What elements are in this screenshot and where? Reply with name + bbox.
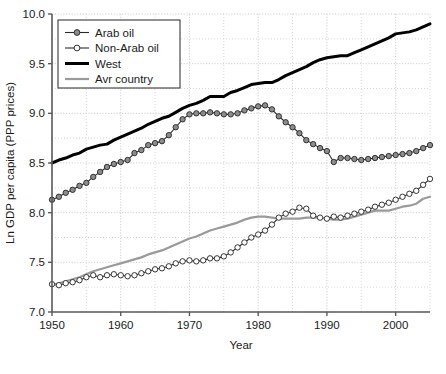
series-marker bbox=[104, 273, 109, 278]
series-marker bbox=[386, 200, 391, 205]
series-marker bbox=[242, 240, 247, 245]
series-marker bbox=[125, 157, 130, 162]
series-marker bbox=[324, 216, 329, 221]
y-tick-label: 7.5 bbox=[29, 256, 45, 268]
series-marker bbox=[242, 108, 247, 113]
series-marker bbox=[91, 273, 96, 278]
series-marker bbox=[414, 148, 419, 153]
series-marker bbox=[269, 222, 274, 227]
series-marker bbox=[77, 278, 82, 283]
series-marker bbox=[228, 112, 233, 117]
series-marker bbox=[207, 110, 212, 115]
series-marker bbox=[427, 142, 432, 147]
series-marker bbox=[207, 256, 212, 261]
series-marker bbox=[132, 150, 137, 155]
series-marker bbox=[249, 106, 254, 111]
series-marker bbox=[345, 213, 350, 218]
x-tick-label: 1970 bbox=[177, 319, 203, 331]
x-tick-label: 1950 bbox=[39, 319, 65, 331]
y-tick-label: 8.0 bbox=[29, 207, 45, 219]
series-marker bbox=[338, 215, 343, 220]
series-marker bbox=[420, 182, 425, 187]
series-marker bbox=[345, 155, 350, 160]
series-marker bbox=[180, 259, 185, 264]
series-marker bbox=[427, 176, 432, 181]
series-marker bbox=[228, 250, 233, 255]
series-marker bbox=[400, 151, 405, 156]
series-marker bbox=[407, 150, 412, 155]
series-marker bbox=[407, 191, 412, 196]
series-marker bbox=[194, 111, 199, 116]
series-marker bbox=[283, 211, 288, 216]
series-marker bbox=[97, 275, 102, 280]
series-marker bbox=[290, 125, 295, 130]
series-marker bbox=[235, 245, 240, 250]
series-marker bbox=[255, 232, 260, 237]
series-marker bbox=[187, 258, 192, 263]
series-marker bbox=[84, 275, 89, 280]
y-tick-label: 7.0 bbox=[29, 306, 45, 318]
series-marker bbox=[63, 280, 68, 285]
y-tick-label: 9.5 bbox=[29, 58, 45, 70]
series-marker bbox=[146, 142, 151, 147]
y-axis-title: Ln GDP per capita (PPP prices) bbox=[4, 82, 16, 244]
series-marker bbox=[70, 280, 75, 285]
series-marker bbox=[166, 264, 171, 269]
series-marker bbox=[118, 273, 123, 278]
x-tick-label: 1960 bbox=[108, 319, 134, 331]
series-marker bbox=[159, 138, 164, 143]
series-marker bbox=[386, 153, 391, 158]
series-marker bbox=[70, 187, 75, 192]
x-tick-label: 1990 bbox=[314, 319, 340, 331]
x-tick-label: 2000 bbox=[383, 319, 409, 331]
series-marker bbox=[255, 104, 260, 109]
series-marker bbox=[400, 194, 405, 199]
series-marker bbox=[132, 273, 137, 278]
legend-label-avr-country: Avr country bbox=[95, 73, 153, 85]
series-marker bbox=[262, 103, 267, 108]
series-marker bbox=[214, 111, 219, 116]
series-marker bbox=[393, 197, 398, 202]
series-marker bbox=[331, 214, 336, 219]
series-marker bbox=[372, 155, 377, 160]
series-marker bbox=[297, 131, 302, 136]
chart-legend: Arab oilNon-Arab oilWestAvr country bbox=[58, 20, 180, 88]
series-marker bbox=[152, 267, 157, 272]
series-marker bbox=[77, 183, 82, 188]
series-marker bbox=[276, 114, 281, 119]
series-marker bbox=[152, 140, 157, 145]
series-marker bbox=[111, 161, 116, 166]
series-marker bbox=[166, 132, 171, 137]
series-marker bbox=[159, 266, 164, 271]
series-marker bbox=[91, 174, 96, 179]
series-marker bbox=[304, 206, 309, 211]
series-marker bbox=[173, 125, 178, 130]
series-marker bbox=[420, 145, 425, 150]
series-marker bbox=[97, 169, 102, 174]
series-marker bbox=[146, 269, 151, 274]
series-marker bbox=[297, 205, 302, 210]
series-marker bbox=[221, 254, 226, 259]
series-marker bbox=[173, 261, 178, 266]
series-marker bbox=[338, 155, 343, 160]
series-marker bbox=[365, 156, 370, 161]
series-marker bbox=[235, 111, 240, 116]
series-marker bbox=[310, 213, 315, 218]
series-marker bbox=[317, 145, 322, 150]
series-marker bbox=[180, 117, 185, 122]
series-marker bbox=[262, 228, 267, 233]
series-marker bbox=[201, 111, 206, 116]
series-marker bbox=[372, 204, 377, 209]
series-marker bbox=[56, 282, 61, 287]
series-marker bbox=[379, 154, 384, 159]
series-marker bbox=[331, 159, 336, 164]
series-marker bbox=[214, 256, 219, 261]
series-marker bbox=[118, 159, 123, 164]
series-marker bbox=[379, 202, 384, 207]
series-marker bbox=[139, 147, 144, 152]
series-marker bbox=[317, 215, 322, 220]
series-marker bbox=[201, 258, 206, 263]
series-marker bbox=[139, 271, 144, 276]
series-marker bbox=[187, 112, 192, 117]
legend-label-arab-oil: Arab oil bbox=[95, 27, 134, 39]
